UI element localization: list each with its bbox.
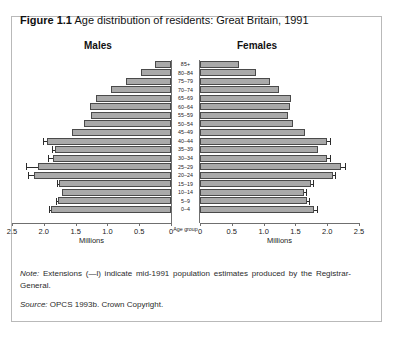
x-tick-right [232, 223, 233, 226]
age-group-label: 60–64 [172, 103, 199, 112]
x-tick-label-right: 2.0 [322, 227, 332, 236]
female-bar [200, 146, 318, 153]
age-group-label: 30–34 [172, 154, 199, 163]
x-axis-label-right: Millions [267, 236, 292, 245]
female-bar [200, 86, 279, 93]
age-group-label: 80–84 [172, 69, 199, 78]
male-bar-cell [12, 154, 171, 163]
x-tick-label-right: 1.0 [258, 227, 268, 236]
male-extension-cap [43, 138, 44, 145]
female-bar-cell [200, 77, 359, 86]
age-group-axis: 85+80–8475–7970–7465–6960–6455–5950–5445… [171, 60, 200, 223]
female-bar [200, 138, 327, 145]
female-bar [200, 129, 305, 136]
female-bar [200, 155, 327, 162]
age-group-label: 65–69 [172, 94, 199, 103]
male-extension-cap [57, 180, 58, 187]
male-bar [91, 112, 171, 119]
source-prefix: Source: [20, 300, 48, 309]
female-extension-cap [335, 172, 336, 179]
figure-number: Figure 1.1 [20, 14, 72, 26]
female-bar [200, 197, 307, 204]
age-group-label: 45–49 [172, 128, 199, 137]
female-bar [200, 78, 270, 85]
age-group-label: 35–39 [172, 145, 199, 154]
female-bar [200, 163, 341, 170]
x-tick-left [107, 223, 108, 226]
female-extension-cap [313, 180, 314, 187]
male-bar-cell [12, 120, 171, 129]
male-bar [34, 172, 171, 179]
female-extension-cap [317, 206, 318, 213]
age-group-label: 20–24 [172, 171, 199, 180]
female-bar-cell [200, 180, 359, 189]
male-extension-cap [48, 155, 49, 162]
x-tick-label-right: 2.5 [354, 227, 364, 236]
male-bar-cell [12, 145, 171, 154]
male-bar-cell [12, 188, 171, 197]
male-bar-cell [12, 171, 171, 180]
male-bar [51, 206, 171, 213]
x-tick-label-left: 0.5 [134, 227, 144, 236]
male-bar-cell [12, 86, 171, 95]
male-bar [141, 69, 171, 76]
male-bar [62, 189, 171, 196]
source-text: OPCS 1993b. Crown Copyright. [48, 300, 164, 309]
male-bar [58, 197, 171, 204]
y-axis-label: Age group [166, 226, 206, 232]
x-tick-left [12, 223, 13, 226]
male-extension-cap [49, 206, 50, 213]
male-bar [59, 180, 171, 187]
female-bar [200, 180, 311, 187]
note-prefix: Note: [20, 269, 39, 278]
female-bar-cell [200, 111, 359, 120]
figure-title: Figure 1.1 Age distribution of residents… [20, 14, 309, 26]
female-bar [200, 103, 290, 110]
x-tick-label-left: 1.0 [102, 227, 112, 236]
female-bar [200, 120, 293, 127]
male-bar-cell [12, 103, 171, 112]
male-extension-line [26, 167, 38, 168]
female-extension-cap [309, 198, 310, 205]
female-bar [200, 61, 239, 68]
male-bar [96, 95, 171, 102]
source-line: Source: OPCS 1993b. Crown Copyright. [20, 299, 351, 311]
x-tick-label-left: 2.0 [39, 227, 49, 236]
female-bar [200, 69, 256, 76]
male-bar-cell [12, 69, 171, 78]
female-bar-cell [200, 94, 359, 103]
female-bar [200, 95, 291, 102]
age-group-label: 50–54 [172, 120, 199, 129]
male-bar-cell [12, 128, 171, 137]
female-bar-cell [200, 197, 359, 206]
female-extension-cap [345, 163, 346, 170]
figure-notes: Note: Extensions (—l) indicate mid-1991 … [20, 268, 351, 311]
age-group-label: 10–14 [172, 188, 199, 197]
female-bar [200, 189, 304, 196]
male-bar-cell [12, 60, 171, 69]
male-bar [72, 129, 171, 136]
male-bar [90, 103, 171, 110]
age-group-label: 75–79 [172, 77, 199, 86]
male-bar [47, 138, 171, 145]
x-axis-left [12, 223, 171, 224]
age-group-label: 5–9 [172, 197, 199, 206]
x-tick-label-right: 1.5 [290, 227, 300, 236]
x-tick-right [295, 223, 296, 226]
male-bar [126, 78, 171, 85]
male-bar-cell [12, 180, 171, 189]
female-bar-cell [200, 205, 359, 214]
x-tick-right [264, 223, 265, 226]
male-bar-cell [12, 94, 171, 103]
age-group-label: 70–74 [172, 86, 199, 95]
age-group-label: 0–4 [172, 205, 199, 214]
female-bar-cell [200, 145, 359, 154]
male-bar [84, 120, 171, 127]
female-bar-cell [200, 103, 359, 112]
age-group-label: 15–19 [172, 180, 199, 189]
male-bar [155, 61, 171, 68]
female-extension-cap [330, 138, 331, 145]
x-axis-right [200, 223, 359, 224]
x-tick-right [327, 223, 328, 226]
male-extension-cap [52, 146, 53, 153]
